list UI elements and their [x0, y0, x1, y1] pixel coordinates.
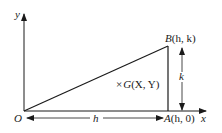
- origin-label: O: [14, 112, 22, 124]
- centroid-G-label: ×G(X, Y): [116, 78, 160, 91]
- h-dimension-label: h: [93, 112, 99, 124]
- x-axis-label: x: [200, 112, 206, 124]
- point-A-label: A(h, 0): [163, 112, 195, 125]
- k-dimension-label: k: [179, 70, 185, 82]
- centroid-marker: ×: [116, 78, 122, 90]
- point-B-label: B(h, k): [165, 32, 196, 45]
- y-axis-label: y: [14, 8, 20, 20]
- right-triangle-diagram: y x O B(h, k) A(h, 0) ×G(X, Y) k h: [0, 0, 222, 133]
